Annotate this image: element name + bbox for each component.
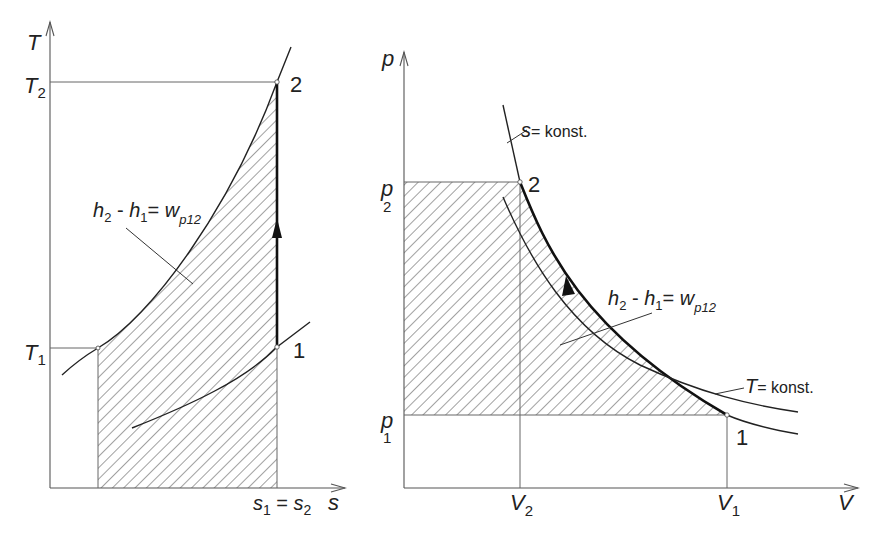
ts-area-label: h2 - h1= wp12 [93,199,202,227]
pv-point-2-label: 2 [528,172,540,197]
pv-state-point-2 [518,180,522,184]
thermodynamic-figure: T s T2 T1 s1 = s2 2 1 h2 - h1= wp12 [0,0,879,544]
ts-point-1-label: 1 [293,338,305,363]
ts-state-point-2 [275,80,279,84]
pv-tick-V1: V1 [717,490,740,519]
pv-tick-p2-sub: 2 [383,198,391,215]
pv-area-label: h2 - h1= wp12 [608,287,717,315]
ts-point-T1 [96,346,100,350]
pv-isotherm-label: T= konst. [745,375,814,397]
pv-tick-V2: V2 [510,490,533,519]
pv-isentrope-label: s= konst. [521,119,587,141]
ts-tick-T1: T1 [24,340,46,368]
pv-point-1-label: 1 [736,425,748,450]
ts-area-leader [126,228,193,284]
pv-state-point-1 [725,413,729,417]
ts-tick-T2: T2 [24,73,46,101]
pv-y-axis-label: p [381,46,394,71]
ts-point-2-label: 2 [290,72,302,97]
ts-diagram: T s T2 T1 s1 = s2 2 1 h2 - h1= wp12 [24,22,345,518]
pv-tick-p1-sub: 1 [383,429,391,446]
pv-diagram: p V p 2 p 1 V2 V1 2 1 s= konst. T= konst… [380,46,858,519]
ts-state-point-1 [275,345,279,349]
pv-isentrope [503,105,520,182]
pv-x-axis-label: V [838,490,855,515]
ts-tick-s1-eq-s2: s1 = s2 [253,492,312,518]
ts-work-area [98,82,277,488]
pv-isotherm-leader [715,388,744,394]
ts-y-axis-label: T [27,30,42,55]
ts-x-axis-label: s [328,490,339,515]
